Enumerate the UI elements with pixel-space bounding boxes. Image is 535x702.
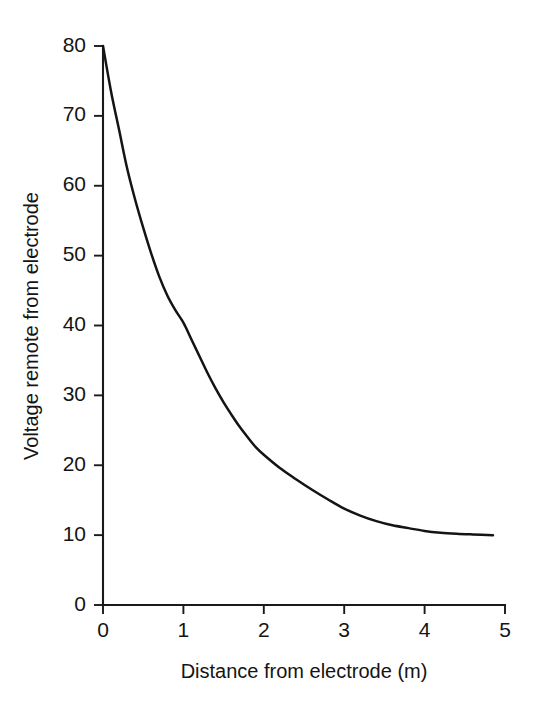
x-tick-label-5: 5: [499, 618, 511, 641]
x-axis-title: Distance from electrode (m): [181, 660, 428, 682]
x-axis-tick-labels: 012345: [97, 618, 511, 641]
y-tick-label-20: 20: [63, 452, 86, 475]
x-axis-ticks: [103, 605, 505, 614]
y-tick-label-80: 80: [63, 33, 86, 56]
y-tick-label-70: 70: [63, 102, 86, 125]
y-axis-title: Voltage remote from electrode: [20, 192, 42, 460]
y-axis-tick-labels: 01020304050607080: [63, 33, 86, 615]
y-tick-label-10: 10: [63, 522, 86, 545]
x-tick-label-1: 1: [178, 618, 190, 641]
data-series-line: [103, 46, 493, 535]
y-tick-label-60: 60: [63, 172, 86, 195]
chart-plot-area: 01020304050607080 012345 Distance from e…: [0, 0, 535, 702]
y-tick-label-0: 0: [74, 592, 86, 615]
axis-lines: [103, 46, 505, 605]
x-tick-label-2: 2: [258, 618, 270, 641]
x-tick-label-3: 3: [338, 618, 350, 641]
x-tick-label-0: 0: [97, 618, 109, 641]
y-axis-ticks: [94, 46, 103, 605]
y-tick-label-40: 40: [63, 312, 86, 335]
y-tick-label-30: 30: [63, 382, 86, 405]
y-tick-label-50: 50: [63, 242, 86, 265]
x-tick-label-4: 4: [419, 618, 431, 641]
chart-figure: 01020304050607080 012345 Distance from e…: [0, 0, 535, 702]
